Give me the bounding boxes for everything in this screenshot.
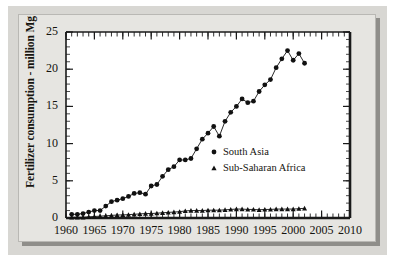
data-point-circle bbox=[137, 190, 142, 195]
data-point-circle bbox=[115, 198, 120, 203]
data-point-circle bbox=[206, 131, 211, 136]
data-point-circle bbox=[279, 56, 284, 61]
data-point-circle bbox=[183, 158, 188, 163]
legend-label-south-asia: South Asia bbox=[223, 146, 269, 157]
data-point-circle bbox=[251, 99, 256, 104]
data-point-circle bbox=[200, 137, 205, 142]
data-point-circle bbox=[245, 100, 250, 105]
data-point-circle bbox=[211, 124, 216, 129]
data-point-circle bbox=[143, 192, 148, 197]
data-point-circle bbox=[302, 61, 307, 66]
y-tick-label: 0 bbox=[36, 211, 58, 223]
data-point-circle bbox=[126, 194, 131, 199]
data-point-circle bbox=[86, 210, 91, 215]
data-point-circle bbox=[223, 119, 228, 124]
data-point-circle bbox=[217, 134, 222, 139]
data-point-circle bbox=[154, 182, 159, 187]
data-point-circle bbox=[234, 104, 239, 109]
data-point-circle bbox=[92, 208, 97, 213]
data-point-circle bbox=[189, 156, 194, 161]
data-point-circle bbox=[274, 65, 279, 70]
data-point-circle bbox=[98, 208, 103, 213]
y-tick-label: 10 bbox=[36, 137, 58, 149]
legend-marker-circle bbox=[212, 150, 217, 155]
data-point-circle bbox=[120, 196, 125, 201]
y-tick-label: 20 bbox=[36, 62, 58, 74]
chart-area: Fertilizer consumption - million Mg Sout… bbox=[0, 0, 395, 266]
data-point-circle bbox=[103, 204, 108, 209]
y-tick-label: 25 bbox=[36, 25, 58, 37]
data-point-circle bbox=[228, 110, 233, 115]
data-point-circle bbox=[285, 48, 290, 53]
data-point-circle bbox=[257, 89, 262, 94]
data-point-circle bbox=[262, 82, 267, 87]
y-tick-label: 15 bbox=[36, 99, 58, 111]
data-point-circle bbox=[109, 199, 114, 204]
y-tick-label: 5 bbox=[36, 174, 58, 186]
data-point-circle bbox=[296, 51, 301, 56]
data-point-circle bbox=[166, 167, 171, 172]
plot-background bbox=[66, 32, 350, 218]
data-point-circle bbox=[268, 77, 273, 82]
y-axis-title: Fertilizer consumption - million Mg bbox=[24, 2, 36, 202]
data-point-circle bbox=[149, 184, 154, 189]
legend-label-sub-saharan-africa: Sub-Saharan Africa bbox=[223, 162, 306, 173]
data-point-circle bbox=[194, 146, 199, 151]
data-point-circle bbox=[160, 174, 165, 179]
data-point-circle bbox=[132, 191, 137, 196]
data-point-circle bbox=[240, 97, 245, 102]
data-point-circle bbox=[172, 164, 177, 169]
data-point-circle bbox=[291, 58, 296, 63]
x-tick-label: 2010 bbox=[328, 224, 372, 236]
figure-root: Fertilizer consumption - million Mg Sout… bbox=[0, 0, 395, 266]
data-point-circle bbox=[177, 158, 182, 163]
